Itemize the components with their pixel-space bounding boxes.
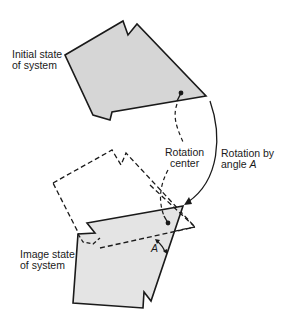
image-state-line2: of system <box>20 260 75 271</box>
rotation-arrowhead-icon <box>184 197 192 205</box>
rotation-angle-label: Rotation by angle A <box>221 148 274 170</box>
angle-symbol: A <box>250 158 257 170</box>
initial-state-shape <box>65 21 206 120</box>
initial-state-line2: of system <box>12 60 62 71</box>
angle-a-label: A <box>151 243 158 254</box>
initial-state-label: Initial state of system <box>12 49 62 71</box>
image-state-label: Image state of system <box>20 249 75 271</box>
rotation-angle-line2: angle A <box>221 159 274 170</box>
rotation-center-line2: center <box>165 158 204 169</box>
rotation-center-label: Rotation center <box>165 147 204 169</box>
